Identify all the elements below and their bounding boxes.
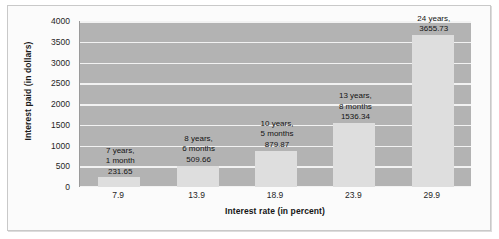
- bar-label-value: 879.87: [234, 140, 320, 151]
- y-tick-1500: 1500: [51, 120, 70, 130]
- bar-label-18-9: 10 years, 5 months 879.87: [234, 119, 320, 151]
- bar-label-line1: 8 years,: [156, 134, 242, 145]
- bar-label-29-9: 24 years, 3655.73: [391, 14, 477, 35]
- bar-label-line1: 13 years,: [312, 91, 398, 102]
- y-tick-1000: 1000: [51, 141, 70, 151]
- x-axis-title: Interest rate (in percent): [79, 206, 471, 216]
- y-tick-3000: 3000: [51, 58, 70, 68]
- x-tick-29-9: 29.9: [424, 190, 441, 200]
- bar-label-value: 231.65: [77, 167, 163, 178]
- y-tick-2500: 2500: [51, 78, 70, 88]
- bar-23-9[interactable]: [333, 123, 375, 187]
- bar-label-23-9: 13 years, 8 months 1536.34: [312, 91, 398, 123]
- bar-label-line2: 1 month: [77, 156, 163, 167]
- bar-7-9[interactable]: [98, 177, 140, 187]
- bar-label-7-9: 7 years, 1 month 231.65: [77, 146, 163, 178]
- plot-area: 7 years, 1 month 231.65 8 years, 6 month…: [79, 21, 471, 187]
- bar-label-line2: 5 months: [234, 129, 320, 140]
- bar-label-value: 3655.73: [391, 24, 477, 35]
- chart-figure: Interest paid (in dollars) 0 500 1000 15…: [7, 5, 491, 231]
- bar-label-line1: 24 years,: [391, 14, 477, 25]
- bar-label-line2: 8 months: [312, 102, 398, 113]
- bar-label-line1: 7 years,: [77, 146, 163, 157]
- bar-label-value: 509.66: [156, 155, 242, 166]
- y-tick-3500: 3500: [51, 37, 70, 47]
- bar-29-9[interactable]: [412, 35, 454, 187]
- bar-18-9[interactable]: [255, 151, 297, 188]
- bar-label-13-9: 8 years, 6 months 509.66: [156, 134, 242, 166]
- bar-label-line1: 10 years,: [234, 119, 320, 130]
- x-tick-7-9: 7.9: [112, 190, 124, 200]
- x-tick-18-9: 18.9: [267, 190, 284, 200]
- bar-label-line2: 6 months: [156, 144, 242, 155]
- x-tick-13-9: 13.9: [188, 190, 205, 200]
- bar-13-9[interactable]: [177, 166, 219, 187]
- bar-label-value: 1536.34: [312, 112, 398, 123]
- x-tick-23-9: 23.9: [345, 190, 362, 200]
- y-tick-2000: 2000: [51, 99, 70, 109]
- y-tick-500: 500: [56, 161, 70, 171]
- y-tick-0: 0: [65, 182, 70, 192]
- y-axis-tick-labels: 0 500 1000 1500 2000 2500 3000 3500 4000: [8, 21, 74, 187]
- y-tick-4000: 4000: [51, 16, 70, 26]
- x-axis-tick-labels: 7.9 13.9 18.9 23.9 29.9: [79, 190, 471, 206]
